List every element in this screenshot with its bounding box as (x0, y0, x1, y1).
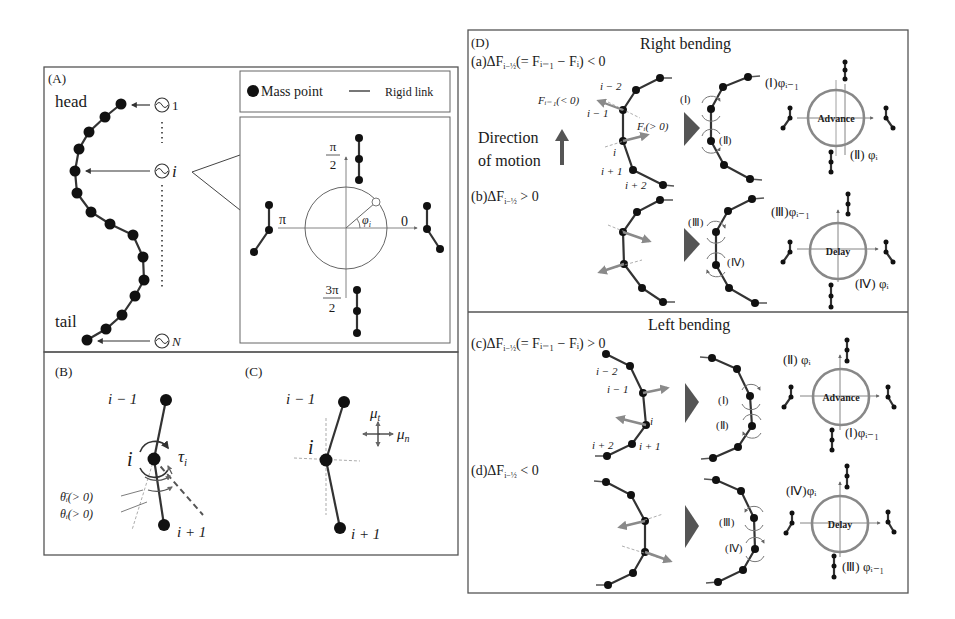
svg-text:(Ⅰ): (Ⅰ) (680, 93, 691, 106)
mu-n-label: μn (396, 426, 410, 444)
delay-label: Delay (826, 246, 850, 257)
pi-label: π (279, 212, 286, 227)
svg-text:2: 2 (330, 157, 337, 172)
svg-text:i + 2: i + 2 (592, 439, 614, 451)
delay-label: Delay (828, 519, 852, 530)
posture-left (250, 201, 273, 256)
case-c-after: (Ⅰ) (Ⅱ) (700, 354, 761, 462)
tail-label: tail (55, 312, 77, 331)
panel-d: (D) Right bending Left bending (a)ΔFi−½(… (468, 30, 908, 593)
theta-label: θᵢ(> 0) (60, 507, 93, 521)
svg-text:i: i (308, 436, 314, 458)
panel-a: (A) head tail (44, 67, 458, 352)
svg-text:(Ⅰ): (Ⅰ) (718, 394, 729, 407)
case-b-after: (Ⅲ) (Ⅳ) (688, 195, 767, 307)
panel-a-tag: (A) (48, 71, 66, 86)
phase-ring-b: Delay (Ⅲ)φᵢ₋₁ (Ⅳ) φᵢ (771, 192, 896, 310)
case-b-label: (b)ΔFi−½ > 0 (471, 189, 539, 206)
callout-lines (192, 155, 240, 210)
svg-text:i − 1: i − 1 (286, 391, 315, 407)
mass-points (70, 99, 150, 346)
transition-arrow-icon (685, 505, 699, 548)
svg-text:3π: 3π (325, 282, 339, 297)
oscillator-i: i (155, 162, 177, 181)
svg-text:i + 1: i + 1 (601, 165, 622, 177)
svg-text:(Ⅱ) φᵢ: (Ⅱ) φᵢ (850, 147, 878, 162)
svg-text:i: i (172, 162, 177, 181)
svg-text:(Ⅰ)φᵢ₋₁: (Ⅰ)φᵢ₋₁ (765, 75, 799, 90)
force-arrow-icon (618, 418, 646, 425)
case-d-before (594, 478, 670, 589)
svg-text:(Ⅳ): (Ⅳ) (725, 542, 743, 555)
svg-text:(Ⅲ): (Ⅲ) (688, 216, 704, 229)
phase-diagram: φi π 2 π 0 3π 2 (240, 117, 450, 343)
svg-text:(C): (C) (245, 364, 262, 379)
svg-text:i: i (127, 448, 133, 470)
svg-text:(Ⅰ)φᵢ₋₁: (Ⅰ)φᵢ₋₁ (845, 425, 879, 440)
svg-text:(Ⅳ): (Ⅳ) (727, 256, 745, 269)
theta-bar-label: θ̄ᵢ(> 0) (60, 490, 93, 504)
panel-b: (B) i − 1 i τi i + 1 θ̄ᵢ(> 0) θᵢ(> 0) (55, 364, 206, 540)
svg-text:i − 1: i − 1 (108, 391, 137, 407)
head-label: head (55, 92, 88, 111)
force-arrow-icon (600, 264, 624, 272)
torque-arrow-icon (140, 441, 168, 452)
case-a-before: i − 2 Fᵢ₋₁(< 0) i − 1 Fᵢ(> 0) i i + 1 i … (537, 74, 674, 191)
force-arrow-icon (643, 388, 667, 393)
force-arrow-icon (620, 521, 645, 527)
advance-label: Advance (817, 113, 855, 124)
svg-text:i + 1: i + 1 (177, 524, 206, 540)
svg-text:i − 1: i − 1 (607, 383, 628, 395)
posture-right (423, 202, 444, 253)
transition-arrow-icon (685, 383, 699, 423)
legend: Mass point Rigid link (240, 71, 450, 112)
case-d-label: (d)ΔFi−½ < 0 (471, 463, 539, 480)
svg-text:(Ⅳ) φᵢ: (Ⅳ) φᵢ (855, 276, 889, 291)
direction-label-2: of motion (478, 152, 541, 169)
svg-text:π: π (330, 139, 337, 154)
panel-bc: (B) i − 1 i τi i + 1 θ̄ᵢ(> 0) θᵢ(> 0) (C… (44, 352, 458, 555)
advance-label: Advance (822, 392, 860, 403)
panel-a-border (44, 67, 458, 352)
svg-text:(Ⅲ)φᵢ₋₁: (Ⅲ)φᵢ₋₁ (771, 204, 810, 219)
force-arrow-icon (623, 232, 649, 241)
svg-text:i + 1: i + 1 (639, 440, 660, 452)
figure-canvas: (A) head tail (0, 0, 955, 619)
svg-text:i − 2: i − 2 (600, 80, 622, 92)
svg-text:(Ⅲ): (Ⅲ) (719, 516, 735, 529)
svg-text:1: 1 (172, 98, 179, 113)
case-b-before (600, 196, 675, 306)
case-a-label: (a)ΔFi−½(= Fᵢ₋₁ − Fᵢ) < 0 (471, 54, 606, 71)
svg-text:(Ⅲ) φᵢ₋₁: (Ⅲ) φᵢ₋₁ (842, 559, 884, 574)
svg-text:i − 1: i − 1 (587, 107, 608, 119)
svg-text:i + 1: i + 1 (351, 526, 380, 542)
mass-point-icon (247, 85, 259, 97)
case-c-before: i − 2 i − 1 i i + 2 i + 1 (592, 350, 667, 460)
posture-bottom (353, 286, 361, 337)
svg-text:i + 2: i + 2 (625, 179, 647, 191)
phase-ring-a: Advance (Ⅰ)φᵢ₋₁ (Ⅱ) φᵢ (765, 60, 896, 175)
svg-text:(B): (B) (55, 364, 72, 379)
zero-label: 0 (401, 214, 408, 229)
posture-top (355, 134, 363, 184)
phase-ring-c: Advance (Ⅱ) φᵢ (Ⅰ)φᵢ₋₁ (782, 338, 897, 453)
oscillator-1: 1 (155, 98, 179, 113)
mu-t-label: μt (369, 405, 381, 423)
tau-label: τi (178, 447, 187, 468)
phi-label: φi (362, 213, 371, 229)
case-c-label: (c)ΔFi−½(= Fᵢ₋₁ − Fᵢ) > 0 (471, 336, 606, 353)
svg-text:(D): (D) (471, 35, 489, 50)
case-d-after: (Ⅲ) (Ⅳ) (704, 476, 764, 586)
svg-text:i: i (613, 146, 616, 158)
right-bending-title: Right bending (640, 35, 731, 53)
svg-text:(Ⅱ): (Ⅱ) (716, 419, 729, 432)
svg-text:(Ⅱ): (Ⅱ) (719, 134, 732, 147)
svg-text:(Ⅱ) φᵢ: (Ⅱ) φᵢ (783, 352, 811, 367)
phase-ring-d: Delay (Ⅳ)φᵢ (Ⅲ) φᵢ₋₁ (784, 464, 897, 580)
phase-point (372, 198, 380, 206)
force-arrow-icon (645, 552, 670, 561)
transition-arrow-icon (684, 112, 700, 146)
force-arrow-icon (623, 135, 647, 141)
svg-text:Fᵢ(> 0): Fᵢ(> 0) (636, 120, 669, 133)
svg-text:(Ⅳ)φᵢ: (Ⅳ)φᵢ (786, 483, 817, 498)
